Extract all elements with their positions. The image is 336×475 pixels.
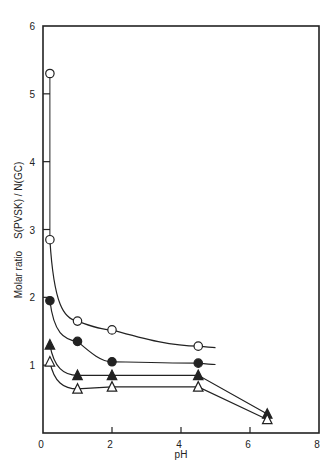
series-curve-filled-circle [50,301,216,365]
y-tick-label: 4 [29,157,35,168]
series-curves [50,73,267,419]
open-circle-marker [46,69,54,77]
plot-frame [43,26,319,433]
x-axis-label: pH [175,449,188,460]
x-tick-label: 0 [38,439,44,450]
filled-circle-marker [108,358,116,366]
y-tick-label: 5 [29,89,35,100]
svg-text:6: 6 [29,21,35,32]
y-axis-label: Molar ratioS(PVSK) / N(GC) [13,162,24,298]
filled-circle-marker [73,337,81,345]
y-tick-label: 3 [29,225,35,236]
filled-circle-marker [194,359,202,367]
open-circle-marker [46,235,54,243]
chart: 02468612345 pH Molar ratioS(PVSK) / N(GC… [0,0,336,475]
series-curve-open-triangle [50,362,267,420]
open-circle-marker [73,317,81,325]
x-tick-label: 6 [245,439,251,450]
filled-triangle-marker [45,340,55,350]
y-tick-label: 2 [29,292,35,303]
open-circle-marker [194,342,202,350]
axis-ticks: 02468612345 [29,21,320,450]
filled-circle-marker [46,297,54,305]
x-tick-label: 2 [107,439,113,450]
series-markers [45,69,272,423]
x-tick-label: 8 [314,439,320,450]
series-curve-open-circle [50,240,216,348]
y-tick-label: 1 [29,360,35,371]
open-circle-marker [108,326,116,334]
